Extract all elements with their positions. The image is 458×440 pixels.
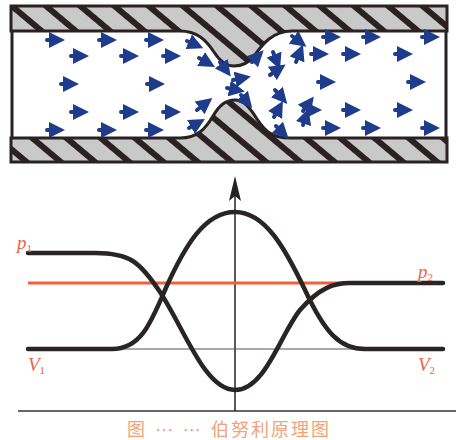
pipe: [11, 6, 447, 162]
label-p2: p2: [418, 262, 433, 283]
label-v2: V2: [418, 355, 435, 376]
label-v1: V1: [28, 355, 45, 376]
label-p1: p1: [17, 233, 32, 254]
pressure-velocity-graph: [18, 176, 456, 411]
lower-wall: [11, 100, 447, 162]
figure-caption: 图 ⋯ ⋯ 伯努利原理图: [0, 421, 458, 439]
